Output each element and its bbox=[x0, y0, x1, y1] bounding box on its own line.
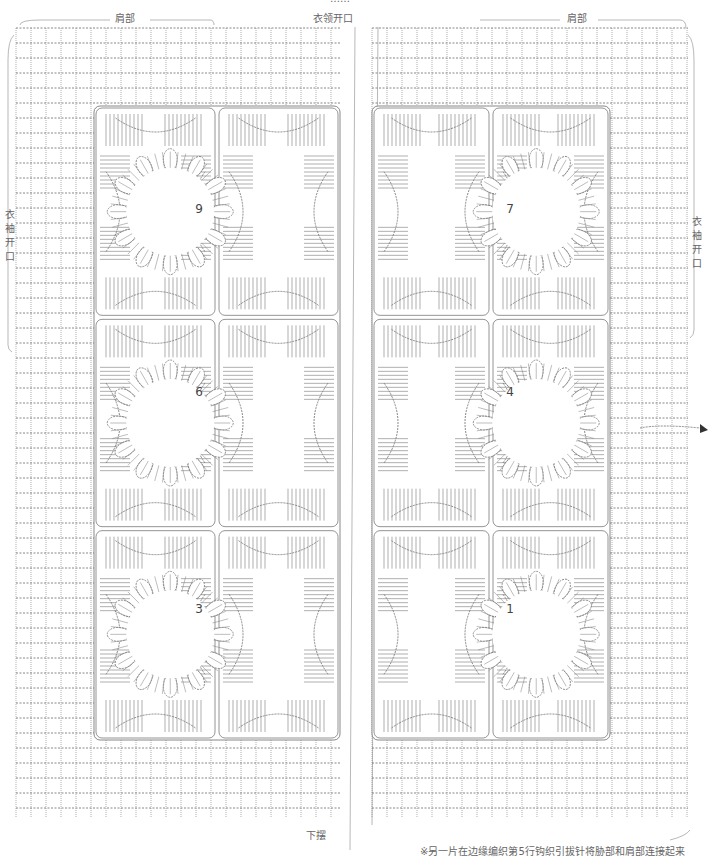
arrow-right-icon bbox=[700, 424, 708, 433]
right-sleeve-opening-label: 衣袖开口 bbox=[691, 215, 702, 271]
top-partial-text: …… bbox=[330, 0, 350, 4]
left-shoulder-label: 肩部 bbox=[115, 14, 135, 24]
motif-number-9: 9 bbox=[189, 203, 209, 215]
motif-number-1: 1 bbox=[500, 603, 520, 615]
crochet-diagram: …… 肩部 肩部 衣领开口 衣袖开口 衣袖开口 下摆 ※另一片在边缘编织第5行钩… bbox=[0, 0, 708, 859]
footnote: ※另一片在边缘编织第5行钩织引拔针将胁部和肩部连接起来 bbox=[420, 843, 685, 858]
left-sleeve-opening-label: 衣袖开口 bbox=[4, 208, 15, 264]
hem-label: 下摆 bbox=[306, 831, 326, 841]
stitch-chart bbox=[0, 0, 708, 859]
neck-opening-label: 衣领开口 bbox=[313, 14, 353, 24]
motif-number-7: 7 bbox=[500, 203, 520, 215]
motif-number-4: 4 bbox=[500, 386, 520, 398]
motif-number-3: 3 bbox=[189, 603, 209, 615]
motif-number-6: 6 bbox=[189, 386, 209, 398]
right-shoulder-label: 肩部 bbox=[567, 14, 587, 24]
